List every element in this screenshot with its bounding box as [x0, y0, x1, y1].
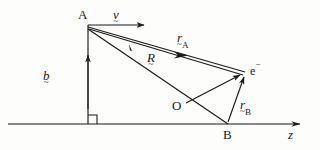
scattering-diagram-figure: A v ~ b ~ R ~ r ~ A r ~ B e− O B z — [0, 0, 320, 150]
label-r-b: r ~ B — [240, 98, 251, 115]
label-separation-vector: R ~ — [147, 51, 155, 64]
label-point-o: O — [172, 99, 181, 112]
right-angle-marker-icon — [88, 115, 97, 124]
label-velocity-vector: v ~ — [113, 8, 119, 21]
label-electron: e− — [250, 63, 260, 77]
vector-tilde-icon: ~ — [113, 17, 118, 26]
o-to-b-line — [186, 103, 228, 124]
label-r-a: r ~ A — [177, 31, 189, 48]
label-point-b: B — [223, 128, 232, 141]
o-to-electron-vector — [186, 75, 240, 103]
r-separation-vector-line — [89, 29, 245, 75]
label-r-a-subscript: A — [182, 40, 189, 50]
label-impact-parameter: b ~ — [43, 69, 50, 82]
vector-tilde-icon: ~ — [44, 78, 49, 87]
label-z-axis: z — [288, 128, 293, 141]
label-point-a: A — [78, 8, 87, 21]
label-electron-charge: − — [255, 59, 260, 69]
r-a-vector-line — [88, 27, 245, 72]
label-r-b-subscript: B — [245, 107, 251, 117]
vector-tilde-icon: ~ — [149, 60, 154, 69]
a-to-b-line — [88, 29, 228, 124]
